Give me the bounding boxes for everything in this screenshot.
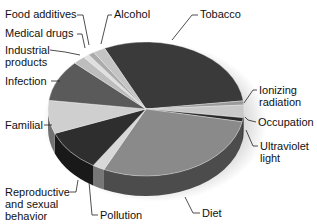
- label-pollution: Pollution: [100, 209, 142, 221]
- label-ionizing-radiation: Ionizing radiation: [259, 84, 317, 108]
- leader-tobacco: [172, 15, 198, 40]
- label-food-additives: Food additives: [5, 8, 77, 20]
- label-medical-drugs: Medical drugs: [5, 27, 73, 39]
- label-alcohol: Alcohol: [114, 8, 150, 20]
- pie-top-face: [48, 42, 244, 176]
- label-occupation: Occupation: [258, 116, 314, 128]
- label-reproductive: Reproductive and sexual behavior: [5, 186, 75, 222]
- leader-medical-drugs: [77, 34, 85, 48]
- leader-diet: [185, 197, 200, 213]
- label-industrial-products: Industrial products: [5, 44, 65, 68]
- label-infection: Infection: [5, 75, 47, 87]
- label-tobacco: Tobacco: [200, 8, 241, 20]
- leader-alcohol: [101, 15, 112, 44]
- label-ultraviolet-light: Ultraviolet light: [260, 140, 316, 164]
- label-familial: Familial: [5, 119, 43, 131]
- label-diet: Diet: [202, 207, 222, 219]
